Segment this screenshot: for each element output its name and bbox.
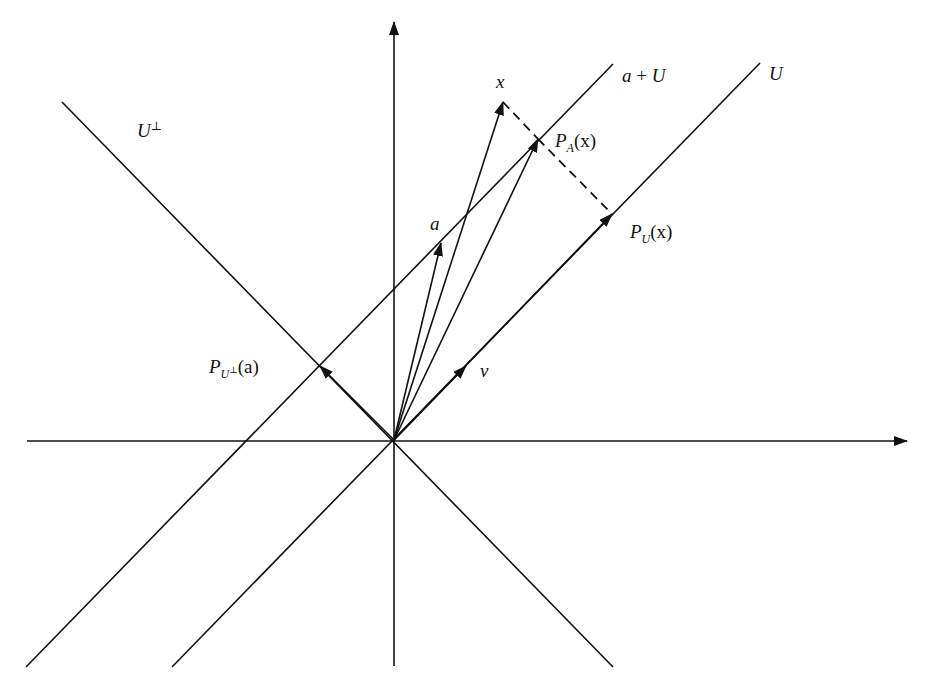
label-a: a bbox=[430, 214, 440, 233]
label-a-plus-U: a + U bbox=[622, 66, 665, 85]
dashed-projection-segment bbox=[503, 102, 538, 139]
label-P-U-x-arg: (x) bbox=[650, 221, 672, 242]
label-P-Uperp-a-arg: (a) bbox=[238, 356, 259, 377]
label-U: U bbox=[769, 64, 783, 83]
label-P-A-x-sub: A bbox=[567, 141, 574, 155]
label-P-U-x: PU(x) bbox=[630, 222, 672, 245]
label-P-A-x: PA(x) bbox=[555, 131, 596, 154]
label-a-text: a bbox=[430, 213, 440, 234]
label-a-plus-U-a: a bbox=[622, 65, 632, 86]
label-P-U-x-sub: U bbox=[642, 232, 651, 246]
label-a-plus-U-U: U bbox=[652, 65, 666, 86]
label-P-Uperp-a-sub-base: U bbox=[221, 367, 230, 381]
projection-diagram bbox=[0, 0, 925, 694]
label-P-A-x-arg: (x) bbox=[574, 130, 596, 151]
vector-P-Uperp-a bbox=[320, 366, 394, 440]
label-a-plus-U-plus: + bbox=[632, 65, 652, 86]
label-x: x bbox=[496, 72, 504, 91]
vector-a bbox=[394, 243, 441, 440]
vector-v bbox=[394, 366, 466, 440]
label-P-Uperp-a-sub: U⊥ bbox=[221, 367, 238, 381]
label-P-Uperp-a-sub-sup: ⊥ bbox=[229, 365, 237, 375]
label-P-A-x-P: P bbox=[555, 130, 567, 151]
label-P-U-x-P: P bbox=[630, 221, 642, 242]
label-v-text: v bbox=[480, 360, 488, 381]
label-U-perp-base: U bbox=[137, 120, 151, 141]
label-x-text: x bbox=[496, 71, 504, 92]
label-v: v bbox=[480, 361, 488, 380]
label-U-perp-sup: ⊥ bbox=[151, 119, 162, 133]
vector-P-A-x bbox=[394, 139, 538, 440]
label-U-text: U bbox=[769, 63, 783, 84]
vector-x bbox=[394, 102, 503, 440]
label-P-Uperp-a-P: P bbox=[209, 356, 221, 377]
label-P-Uperp-a: PU⊥(a) bbox=[209, 357, 259, 380]
label-U-perp: U⊥ bbox=[137, 120, 162, 140]
